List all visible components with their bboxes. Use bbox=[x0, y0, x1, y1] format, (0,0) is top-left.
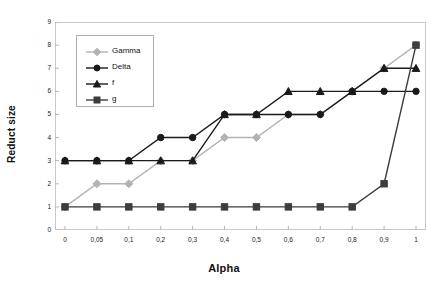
legend-label: f bbox=[112, 78, 114, 87]
y-tick-label: 8 bbox=[29, 42, 51, 49]
chart-legend: GammaDeltafg bbox=[76, 35, 154, 107]
y-axis-title: Reduct size bbox=[6, 74, 17, 194]
legend-item-f: f bbox=[77, 74, 153, 90]
y-tick-label: 0 bbox=[29, 227, 51, 234]
y-tick-label: 4 bbox=[29, 135, 51, 142]
legend-item-g: g bbox=[77, 90, 153, 106]
diamond-marker-icon bbox=[84, 44, 110, 56]
y-tick-label: 5 bbox=[29, 111, 51, 118]
x-tick-label: 1 bbox=[396, 237, 436, 244]
legend-label: g bbox=[112, 94, 116, 103]
legend-item-gamma: Gamma bbox=[77, 42, 153, 58]
y-tick-label: 6 bbox=[29, 88, 51, 95]
y-tick-label: 2 bbox=[29, 181, 51, 188]
triangle-marker-icon bbox=[84, 76, 110, 88]
y-tick-label: 9 bbox=[29, 19, 51, 26]
square-marker-icon bbox=[84, 92, 110, 104]
x-axis-title: Alpha bbox=[0, 262, 448, 274]
circle-marker-icon bbox=[84, 60, 110, 72]
y-tick-label: 1 bbox=[29, 204, 51, 211]
legend-item-delta: Delta bbox=[77, 58, 153, 74]
legend-label: Gamma bbox=[112, 46, 140, 55]
line-chart: Reduct size Alpha 0123456789 00,050,10,2… bbox=[0, 0, 448, 287]
legend-label: Delta bbox=[112, 62, 131, 71]
y-tick-label: 7 bbox=[29, 65, 51, 72]
y-tick-label: 3 bbox=[29, 158, 51, 165]
